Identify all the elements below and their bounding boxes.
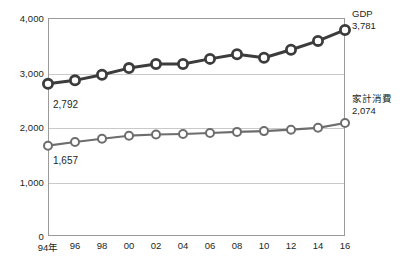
data-point <box>124 63 133 72</box>
data-point <box>205 54 214 63</box>
data-point <box>287 126 295 134</box>
data-point <box>259 53 268 62</box>
data-point <box>179 130 187 138</box>
series-layer <box>0 0 404 270</box>
data-point <box>43 79 52 88</box>
data-point <box>233 128 241 136</box>
data-point <box>286 45 295 54</box>
series-label-gdp: GDP 3,781 <box>352 8 376 32</box>
data-point <box>341 119 349 127</box>
data-point <box>178 59 187 68</box>
series-label-gdp-value: 3,781 <box>352 20 376 32</box>
series-gdp <box>43 25 349 88</box>
annotation-gdp-start: 2,792 <box>53 99 78 110</box>
data-point <box>232 50 241 59</box>
series-label-consumption-value: 2,074 <box>352 105 392 117</box>
data-point <box>340 25 349 34</box>
data-point <box>206 129 214 137</box>
data-point <box>151 59 160 68</box>
data-point <box>314 124 322 132</box>
data-point <box>152 131 160 139</box>
annotation-consumption-start: 1,657 <box>53 155 78 166</box>
series-label-consumption: 家計消費 2,074 <box>352 93 392 117</box>
series-household-consumption <box>44 119 349 150</box>
data-point <box>260 127 268 135</box>
series-label-gdp-name: GDP <box>352 8 376 20</box>
data-point <box>98 135 106 143</box>
data-point <box>44 142 52 150</box>
data-point <box>70 76 79 85</box>
line-chart: 4,000 3,000 2,000 1,000 0 94年 96 98 00 0… <box>0 0 404 270</box>
data-point <box>97 70 106 79</box>
data-point <box>125 132 133 140</box>
data-point <box>71 138 79 146</box>
data-point <box>313 36 322 45</box>
series-label-consumption-name: 家計消費 <box>352 93 392 105</box>
